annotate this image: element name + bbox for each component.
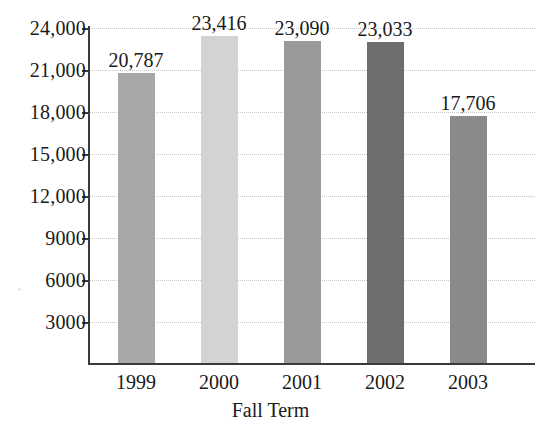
y-tick-label-24000: 24,000 — [30, 18, 86, 38]
bar-2002 — [367, 42, 404, 364]
y-tick-label-6000: 6000 — [45, 270, 86, 290]
x-axis-title: Fall Term — [0, 399, 541, 421]
bar-value-label-1999: 20,787 — [76, 50, 196, 70]
scan-speckle — [530, 195, 533, 198]
bar-1999 — [118, 73, 155, 364]
scan-speckle — [18, 288, 21, 291]
bar-value-label-2002: 23,033 — [325, 19, 445, 39]
bar-2001 — [284, 41, 321, 364]
y-tick-label-3000: 3000 — [45, 312, 86, 332]
x-axis-baseline — [88, 363, 535, 365]
x-tick-label-2003: 2003 — [408, 371, 528, 393]
y-tick-label-12000: 12,000 — [30, 186, 86, 206]
bar-2000 — [201, 36, 238, 364]
y-tick-label-18000: 18,000 — [30, 102, 86, 122]
y-tick-label-9000: 9000 — [45, 228, 86, 248]
bar-2003 — [450, 116, 487, 364]
bar-chart-figure: 24,000 21,000 18,000 15,000 12,000 9000 … — [0, 0, 541, 431]
bar-value-label-2003: 17,706 — [408, 93, 528, 113]
plot-area: 24,000 21,000 18,000 15,000 12,000 9000 … — [0, 0, 541, 431]
y-tick-label-15000: 15,000 — [30, 144, 86, 164]
